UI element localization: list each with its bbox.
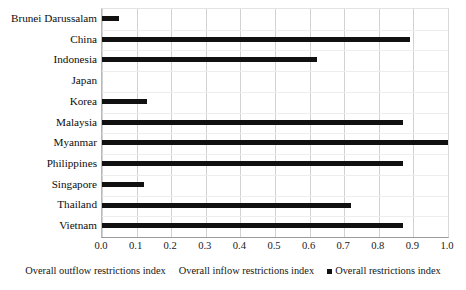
x-tick-label-0.8: 0.8 xyxy=(361,240,395,252)
bar-brunei-darussalam xyxy=(102,16,119,21)
category-label-china: China xyxy=(0,33,97,45)
bar-row xyxy=(102,175,448,196)
category-label-brunei-darussalam: Brunei Darussalam xyxy=(0,12,97,24)
x-tick-label-0.7: 0.7 xyxy=(326,240,360,252)
bar-thailand xyxy=(102,203,351,208)
bar-row xyxy=(102,154,448,175)
bar-row xyxy=(102,71,448,92)
category-label-singapore: Singapore xyxy=(0,178,97,190)
x-tick-label-0.3: 0.3 xyxy=(188,240,222,252)
bar-row xyxy=(102,196,448,217)
bar-indonesia xyxy=(102,57,317,62)
category-label-malaysia: Malaysia xyxy=(0,116,97,128)
bar-row xyxy=(102,113,448,134)
gridline-1.0 xyxy=(448,9,449,237)
legend-label: Overall restrictions index xyxy=(335,264,441,278)
x-tick-label-0.6: 0.6 xyxy=(292,240,326,252)
x-tick-label-1.0: 1.0 xyxy=(430,240,464,252)
bar-row xyxy=(102,216,448,237)
legend-label: Overall outflow restrictions index xyxy=(25,264,166,278)
category-label-korea: Korea xyxy=(0,95,97,107)
bar-china xyxy=(102,37,410,42)
plot-area xyxy=(101,8,449,238)
bar-malaysia xyxy=(102,120,403,125)
bar-row xyxy=(102,9,448,30)
bar-singapore xyxy=(102,182,144,187)
category-label-thailand: Thailand xyxy=(0,198,97,210)
category-label-japan: Japan xyxy=(0,74,97,86)
x-tick-label-0.4: 0.4 xyxy=(222,240,256,252)
bar-row xyxy=(102,92,448,113)
bar-row xyxy=(102,133,448,154)
x-tick-label-0.9: 0.9 xyxy=(395,240,429,252)
x-tick-label-0.1: 0.1 xyxy=(119,240,153,252)
bar-vietnam xyxy=(102,223,403,228)
legend-item: Overall inflow restrictions index xyxy=(179,264,314,278)
bar-philippines xyxy=(102,161,403,166)
legend-swatch-square-icon xyxy=(327,269,332,274)
x-tick-label-0.0: 0.0 xyxy=(84,240,118,252)
category-label-indonesia: Indonesia xyxy=(0,53,97,65)
legend-item: Overall outflow restrictions index xyxy=(25,264,166,278)
bar-korea xyxy=(102,99,147,104)
legend-label: Overall inflow restrictions index xyxy=(179,264,314,278)
chart-legend: Overall outflow restrictions indexOveral… xyxy=(0,262,466,280)
bar-myanmar xyxy=(102,140,448,145)
category-label-myanmar: Myanmar xyxy=(0,136,97,148)
category-label-philippines: Philippines xyxy=(0,157,97,169)
legend-item: Overall restrictions index xyxy=(327,264,441,278)
x-tick-label-0.5: 0.5 xyxy=(257,240,291,252)
bar-row xyxy=(102,50,448,71)
horizontal-bar-chart: Brunei DarussalamChinaIndonesiaJapanKore… xyxy=(0,0,466,290)
x-tick-label-0.2: 0.2 xyxy=(153,240,187,252)
category-label-vietnam: Vietnam xyxy=(0,219,97,231)
bar-row xyxy=(102,30,448,51)
